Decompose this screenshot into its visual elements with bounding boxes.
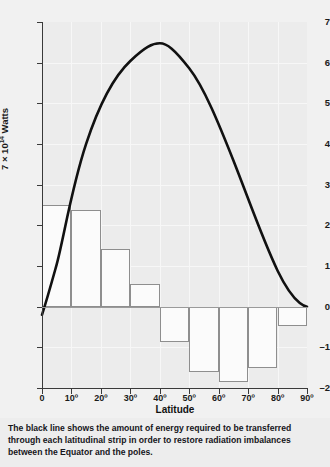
x-tick-label: 70º	[238, 394, 258, 403]
x-tick-label: 60º	[209, 394, 229, 403]
energy-transfer-curve	[42, 22, 307, 388]
y-tick-mark	[37, 266, 42, 267]
y-tick-label: –2	[296, 383, 330, 393]
y-axis-title-base: 7 × 10	[0, 143, 10, 170]
y-tick-mark	[37, 22, 42, 23]
y-axis-title-unit: Watts	[0, 108, 10, 136]
x-tick-label: 30º	[120, 394, 140, 403]
y-tick-mark	[37, 307, 42, 308]
y-tick-label: 5	[296, 98, 330, 108]
plot-panel	[42, 22, 307, 388]
x-tick-label: 10º	[61, 394, 81, 403]
x-tick-label: 20º	[91, 394, 111, 403]
y-axis-title-exponent: 14	[0, 136, 5, 143]
y-tick-mark	[37, 185, 42, 186]
y-tick-label: 6	[296, 58, 330, 68]
y-tick-label: 7	[296, 17, 330, 27]
chart-figure: 7 6 5 4 3 2 1 0 –1 –2 0 10º 20º 30º 40º …	[0, 0, 330, 418]
x-tick-label: 0	[32, 394, 52, 403]
x-tick-label: 50º	[179, 394, 199, 403]
caption-block: The black line shows the amount of energ…	[0, 418, 330, 467]
zero-reference-line	[42, 307, 308, 308]
y-tick-label: 0	[296, 302, 330, 312]
y-tick-label: 4	[296, 139, 330, 149]
x-tick-label: 80º	[268, 394, 288, 403]
y-tick-mark	[37, 63, 42, 64]
x-tick-label: 90º	[297, 394, 317, 403]
x-axis-title: Latitude	[42, 404, 308, 415]
plot-area	[42, 22, 307, 388]
y-tick-mark	[37, 225, 42, 226]
y-tick-mark	[37, 144, 42, 145]
x-axis-line	[42, 388, 308, 389]
y-tick-label: 2	[296, 220, 330, 230]
y-tick-mark	[37, 347, 42, 348]
figure-page: 7 6 5 4 3 2 1 0 –1 –2 0 10º 20º 30º 40º …	[0, 0, 330, 467]
y-axis-line	[42, 22, 43, 389]
x-tick-label: 40º	[150, 394, 170, 403]
y-axis-title: 7 × 1014 Watts	[0, 50, 10, 170]
y-tick-label: 1	[296, 261, 330, 271]
caption-text: The black line shows the amount of energ…	[8, 423, 320, 459]
y-tick-label: –1	[296, 342, 330, 352]
y-tick-mark	[37, 103, 42, 104]
y-tick-label: 3	[296, 180, 330, 190]
